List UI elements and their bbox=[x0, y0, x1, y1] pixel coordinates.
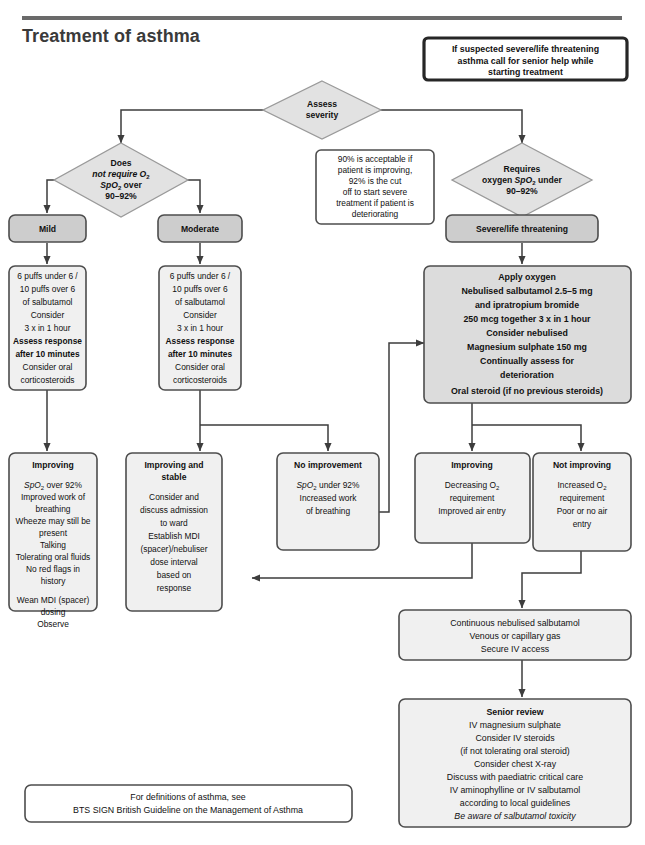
alert-note-box: If suspected severe/life threatening ast… bbox=[424, 38, 627, 80]
severe-treatment-line-8: deterioration bbox=[500, 370, 554, 380]
alert-note-line-3: starting treatment bbox=[488, 67, 563, 77]
side-note-line-1: 90% is acceptable if bbox=[338, 154, 413, 164]
no-improvement-line-3: of breathing bbox=[306, 506, 351, 516]
severe-treatment-line-6: Magnesium sulphate 150 mg bbox=[467, 342, 587, 352]
side-note-line-2: patient is improving, bbox=[338, 165, 412, 175]
severe-treatment-box: Apply oxygen Nebulised salbutamol 2.5–5 … bbox=[424, 266, 631, 403]
moderate-label-box: Moderate bbox=[158, 215, 242, 242]
improving-left-line-5: present bbox=[39, 528, 68, 538]
continuous-line-2: Venous or capillary gas bbox=[470, 631, 562, 641]
not-improving-line-1: Increased O2 bbox=[558, 480, 608, 491]
right-decision-diamond: Requires oxygen SpO2 under 90–92% bbox=[452, 143, 592, 217]
outcome-no-improvement-box: No improvement SpO2 under 92% Increased … bbox=[277, 453, 379, 550]
improving-stable-line-2: discuss admission bbox=[140, 505, 208, 515]
improving-left-line-12: dosing bbox=[41, 607, 66, 617]
senior-review-line-1: IV magnesium sulphate bbox=[469, 720, 561, 730]
edge-assess-to-left-diamond bbox=[121, 110, 265, 143]
severe-treatment-line-1: Apply oxygen bbox=[498, 272, 556, 282]
mild-treatment-line-1: 6 puffs under 6 / bbox=[17, 271, 78, 281]
right-diamond-line-1: Requires bbox=[504, 164, 541, 174]
left-diamond-line-4: 90–92% bbox=[105, 191, 137, 201]
improving-stable-heading-2: stable bbox=[162, 472, 187, 482]
no-improvement-line-2: Increased work bbox=[300, 493, 358, 503]
improving-stable-line-4: Establish MDI bbox=[148, 531, 200, 541]
continuous-line-3: Secure IV access bbox=[481, 644, 550, 654]
assess-severity-diamond: Assess severity bbox=[263, 81, 381, 139]
moderate-treatment-line-1: 6 puffs under 6 / bbox=[170, 271, 231, 281]
definitions-line-1: For definitions of asthma, see bbox=[130, 792, 246, 802]
severe-treatment-line-4: 250 mcg together 3 x in 1 hour bbox=[463, 314, 591, 324]
improving-left-line-7: Tolerating oral fluids bbox=[16, 552, 90, 562]
moderate-treatment-line-2: 10 puffs over 6 bbox=[172, 284, 228, 294]
senior-review-box: Senior review IV magnesium sulphate Cons… bbox=[399, 699, 631, 827]
senior-review-line-2: Consider IV steroids bbox=[475, 733, 555, 743]
no-improvement-heading: No improvement bbox=[294, 460, 362, 470]
severe-treatment-line-2: Nebulised salbutamol 2.5–5 mg bbox=[461, 286, 592, 296]
edge-assess-to-right-diamond bbox=[380, 110, 522, 143]
definitions-box: For definitions of asthma, see BTS SIGN … bbox=[25, 785, 352, 822]
moderate-treatment-line-4: Consider bbox=[183, 310, 217, 320]
severe-treatment-line-9: Oral steroid (if no previous steroids) bbox=[451, 386, 603, 396]
mild-treatment-line-5: 3 x in 1 hour bbox=[24, 323, 70, 333]
mild-treatment-box: 6 puffs under 6 / 10 puffs over 6 of sal… bbox=[9, 266, 86, 390]
left-diamond-line-3: SpO2 over bbox=[100, 180, 142, 191]
outcome-improving-left-box: Improving SpO2 over 92% Improved work of… bbox=[9, 453, 97, 629]
mild-treatment-line-4: Consider bbox=[31, 310, 65, 320]
flowchart-canvas: If suspected severe/life threatening ast… bbox=[0, 0, 645, 845]
improving-stable-line-1: Consider and bbox=[149, 492, 199, 502]
improving-stable-line-6: dose interval bbox=[150, 557, 198, 567]
mild-label-box: Mild bbox=[9, 215, 86, 242]
moderate-treatment-line-6: Assess response bbox=[166, 336, 235, 346]
asthma-treatment-flowchart-page: Treatment of asthma bbox=[0, 0, 645, 845]
side-note-box: 90% is acceptable if patient is improvin… bbox=[316, 150, 434, 224]
moderate-treatment-line-5: 3 x in 1 hour bbox=[177, 323, 223, 333]
not-improving-heading: Not improving bbox=[553, 460, 611, 470]
senior-review-line-4: Consider chest X-ray bbox=[474, 759, 557, 769]
moderate-treatment-line-3: of salbutamol bbox=[175, 297, 225, 307]
senior-review-line-7: according to local guidelines bbox=[460, 798, 571, 808]
moderate-treatment-line-7: after 10 minutes bbox=[168, 349, 233, 359]
not-improving-line-2: requirement bbox=[560, 493, 605, 503]
senior-review-line-3: (if not tolerating oral steroid) bbox=[460, 746, 570, 756]
improving-left-line-13: Observe bbox=[37, 619, 69, 629]
improving-stable-heading-1: Improving and bbox=[144, 460, 203, 470]
outcome-improving-right-box: Improving Decreasing O2 requirement Impr… bbox=[415, 453, 530, 543]
improving-left-line-9: history bbox=[41, 576, 66, 586]
left-diamond-line-2: not require O2 bbox=[92, 169, 150, 180]
improving-right-heading: Improving bbox=[451, 460, 493, 470]
mild-label: Mild bbox=[39, 224, 56, 234]
side-note-line-4: off to start severe bbox=[343, 187, 408, 197]
side-note-line-3: 92% is the cut bbox=[349, 176, 402, 186]
edge-severe-to-not-improving bbox=[472, 425, 581, 451]
alert-note-line-2: asthma call for senior help while bbox=[458, 56, 594, 66]
moderate-treatment-line-9: corticosteroids bbox=[173, 375, 227, 385]
moderate-label: Moderate bbox=[181, 224, 219, 234]
edge-not-improving-to-continuous bbox=[522, 551, 581, 608]
mild-treatment-line-6: Assess response bbox=[13, 336, 82, 346]
improving-left-line-4: Wheeze may still be bbox=[16, 516, 91, 526]
continuous-nebulised-box: Continuous nebulised salbutamol Venous o… bbox=[399, 610, 631, 660]
senior-review-line-8: Be aware of salbutamol toxicity bbox=[454, 811, 576, 821]
left-diamond-line-1: Does bbox=[110, 158, 131, 168]
edge-moderate-to-no-improvement bbox=[200, 425, 328, 451]
mild-treatment-line-2: 10 puffs over 6 bbox=[20, 284, 76, 294]
outcome-not-improving-box: Not improving Increased O2 requirement P… bbox=[533, 453, 631, 551]
improving-left-heading: Improving bbox=[32, 460, 74, 470]
not-improving-line-3: Poor or no air bbox=[557, 506, 608, 516]
not-improving-line-4: entry bbox=[573, 519, 592, 529]
moderate-treatment-box: 6 puffs under 6 / 10 puffs over 6 of sal… bbox=[159, 266, 241, 390]
improving-left-line-11: Wean MDI (spacer) bbox=[17, 595, 90, 605]
mild-treatment-line-7: after 10 minutes bbox=[15, 349, 80, 359]
senior-review-line-5: Discuss with paediatric critical care bbox=[447, 772, 584, 782]
improving-left-line-3: breathing bbox=[36, 504, 71, 514]
continuous-line-1: Continuous nebulised salbutamol bbox=[450, 618, 580, 628]
outcome-improving-stable-box: Improving and stable Consider and discus… bbox=[126, 453, 222, 611]
improving-stable-line-3: to ward bbox=[160, 518, 188, 528]
improving-right-line-1: Decreasing O2 bbox=[445, 480, 500, 491]
side-note-line-6: deteriorating bbox=[352, 209, 399, 219]
severe-treatment-line-5: Consider nebulised bbox=[486, 328, 568, 338]
improving-left-line-6: Talking bbox=[40, 540, 66, 550]
improving-left-line-2: Improved work of bbox=[21, 492, 86, 502]
severe-treatment-line-3: and ipratropium bromide bbox=[475, 300, 579, 310]
moderate-treatment-line-8: Consider oral bbox=[175, 362, 225, 372]
